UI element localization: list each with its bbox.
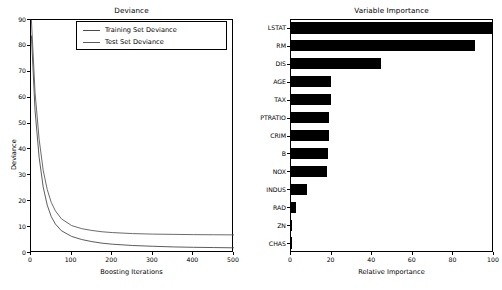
importance-y-tick [287, 64, 290, 65]
figure-canvas: Deviance Deviance Boosting Iterations 01… [0, 0, 502, 290]
deviance-y-tick-label: 70 [8, 67, 26, 74]
importance-category-label: INDUS [242, 186, 286, 193]
importance-category-label: LSTAT [242, 24, 286, 31]
importance-bar [290, 202, 296, 213]
variable-importance-x-axis-label: Relative Importance [290, 268, 493, 276]
importance-x-tick-label: 60 [403, 256, 421, 263]
deviance-y-tick-label: 80 [8, 41, 26, 48]
importance-y-tick [287, 28, 290, 29]
deviance-x-tick [233, 252, 234, 255]
importance-y-tick [287, 46, 290, 47]
importance-x-tick-label: 0 [281, 256, 299, 263]
importance-bar [290, 148, 328, 159]
importance-y-tick [287, 207, 290, 208]
deviance-curves [31, 20, 234, 253]
deviance-y-tick-label: 50 [8, 119, 26, 126]
training-deviance-curve [31, 36, 234, 248]
importance-bar [290, 220, 292, 231]
importance-x-tick [290, 252, 291, 255]
test-deviance-curve [31, 20, 234, 235]
importance-y-tick [287, 153, 290, 154]
deviance-y-tick-label: 0 [8, 249, 26, 256]
importance-y-tick [287, 100, 290, 101]
deviance-y-tick-label: 40 [8, 145, 26, 152]
importance-category-label: RM [242, 42, 286, 49]
importance-bar [290, 112, 329, 123]
variable-importance-chart-title: Variable Importance [290, 6, 493, 15]
legend-entry-training: Training Set Deviance [81, 24, 222, 36]
importance-category-label: AGE [242, 78, 286, 85]
deviance-x-tick [111, 252, 112, 255]
importance-bar [290, 40, 475, 51]
legend-line-training-icon [83, 30, 100, 31]
importance-bar [290, 166, 327, 177]
deviance-y-tick [27, 45, 30, 46]
deviance-x-axis-label: Boosting Iterations [30, 268, 233, 276]
deviance-x-tick [192, 252, 193, 255]
deviance-y-tick-label: 90 [8, 16, 26, 23]
deviance-legend: Training Set Deviance Test Set Deviance [76, 21, 227, 50]
deviance-x-tick-label: 300 [143, 256, 161, 263]
deviance-x-tick-label: 400 [183, 256, 201, 263]
importance-category-label: B [242, 150, 286, 157]
deviance-y-axis-label: Deviance [10, 139, 18, 170]
importance-y-tick [287, 82, 290, 83]
importance-bar [290, 184, 307, 195]
legend-line-test-icon [83, 42, 100, 43]
deviance-plot-area [30, 19, 233, 252]
deviance-y-tick [27, 19, 30, 20]
legend-label-training: Training Set Deviance [105, 26, 177, 34]
importance-category-label: TAX [242, 96, 286, 103]
deviance-y-tick-label: 20 [8, 197, 26, 204]
importance-y-tick [287, 118, 290, 119]
deviance-y-tick [27, 97, 30, 98]
importance-category-label: DIS [242, 60, 286, 67]
legend-label-test: Test Set Deviance [105, 38, 164, 46]
deviance-y-tick [27, 174, 30, 175]
deviance-x-tick [30, 252, 31, 255]
deviance-y-tick [27, 123, 30, 124]
deviance-y-tick [27, 226, 30, 227]
importance-category-label: CRIM [242, 132, 286, 139]
deviance-y-tick [27, 200, 30, 201]
deviance-x-tick-label: 200 [102, 256, 120, 263]
deviance-x-tick-label: 0 [21, 256, 39, 263]
importance-x-tick-label: 40 [362, 256, 380, 263]
importance-bar [290, 94, 331, 105]
importance-x-tick [493, 252, 494, 255]
importance-category-label: RAD [242, 204, 286, 211]
importance-category-label: PTRATIO [242, 114, 286, 121]
importance-x-tick-label: 100 [484, 256, 502, 263]
importance-x-tick [371, 252, 372, 255]
importance-category-label: NOX [242, 168, 286, 175]
legend-entry-test: Test Set Deviance [81, 36, 222, 48]
deviance-x-tick-label: 100 [62, 256, 80, 263]
importance-x-tick [412, 252, 413, 255]
deviance-x-tick-label: 500 [224, 256, 242, 263]
importance-y-tick [287, 243, 290, 244]
deviance-chart-title: Deviance [30, 6, 233, 15]
importance-y-tick [287, 189, 290, 190]
importance-y-tick [287, 171, 290, 172]
deviance-y-tick [27, 148, 30, 149]
importance-x-tick [331, 252, 332, 255]
importance-x-tick-label: 80 [443, 256, 461, 263]
importance-bar [290, 130, 329, 141]
deviance-x-tick [71, 252, 72, 255]
importance-y-tick [287, 136, 290, 137]
deviance-y-tick-label: 10 [8, 223, 26, 230]
importance-bar [290, 22, 493, 33]
importance-x-tick-label: 20 [322, 256, 340, 263]
deviance-y-tick-label: 60 [8, 93, 26, 100]
deviance-y-tick [27, 252, 30, 253]
importance-category-label: CHAS [242, 240, 286, 247]
importance-y-tick [287, 225, 290, 226]
deviance-y-tick [27, 71, 30, 72]
deviance-y-tick-label: 30 [8, 171, 26, 178]
importance-category-label: ZN [242, 222, 286, 229]
importance-x-tick [452, 252, 453, 255]
importance-bar [290, 237, 292, 248]
deviance-x-tick [152, 252, 153, 255]
importance-bar [290, 58, 381, 69]
importance-bar [290, 76, 331, 87]
